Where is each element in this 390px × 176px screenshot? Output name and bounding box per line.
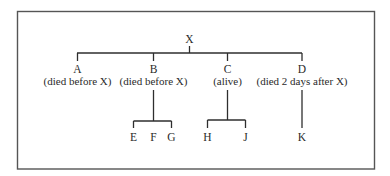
node-b-name: B bbox=[150, 63, 158, 75]
node-root-x: X bbox=[185, 33, 194, 45]
node-j: J bbox=[243, 131, 248, 143]
node-d-note: (died 2 days after X) bbox=[256, 75, 347, 88]
node-c-note: (alive) bbox=[213, 75, 242, 88]
node-f: F bbox=[150, 131, 156, 143]
node-k: K bbox=[298, 131, 307, 143]
node-g: G bbox=[167, 131, 175, 143]
family-tree-diagram: X A (died before X) B (died before X) C … bbox=[0, 0, 390, 176]
diagram-frame bbox=[18, 12, 375, 170]
node-b-note: (died before X) bbox=[120, 75, 188, 88]
node-h: H bbox=[203, 131, 211, 143]
node-a-note: (died before X) bbox=[44, 75, 112, 88]
node-e: E bbox=[130, 131, 137, 143]
node-d-name: D bbox=[298, 63, 306, 75]
node-c-name: C bbox=[224, 63, 232, 75]
node-a-name: A bbox=[73, 63, 82, 75]
